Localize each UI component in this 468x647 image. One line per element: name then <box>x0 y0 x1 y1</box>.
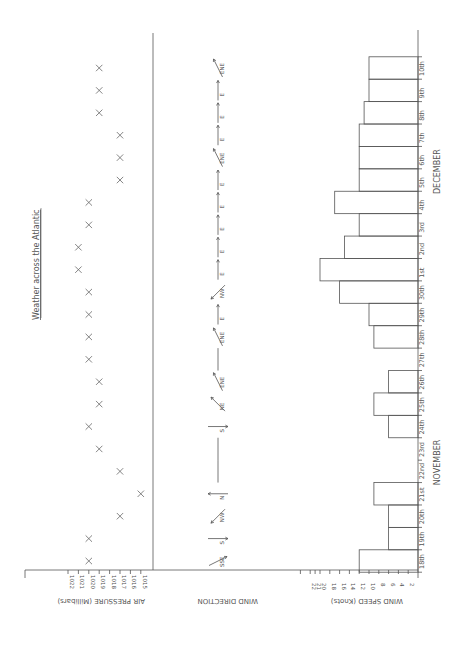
wind-direction-arrow: E <box>217 170 225 190</box>
pressure-x-marker <box>96 446 102 452</box>
wind-direction-arrow: N <box>208 492 228 499</box>
pressure-x-marker <box>86 423 92 429</box>
wind-direction-arrow: E <box>217 237 225 257</box>
wind-speed-bar <box>359 169 418 191</box>
wind-speed-bar <box>369 303 418 325</box>
wind-speed-bar <box>345 236 419 258</box>
speed-axis-label: WIND SPEED (Knots) <box>331 597 403 605</box>
pressure-x-marker <box>96 65 102 71</box>
date-tick-label: 2nd <box>418 243 426 255</box>
pressure-x-marker <box>96 110 102 116</box>
wind-speed-bar <box>340 281 418 303</box>
wind-direction-label: N <box>219 496 225 500</box>
pressure-x-marker <box>96 379 102 385</box>
pressure-axis-label: AIR PRESSURE (Millibars) <box>57 597 145 605</box>
wind-direction-arrow: ENE <box>213 373 225 391</box>
wind-direction-label: E <box>219 137 225 141</box>
pressure-x-marker <box>86 535 92 541</box>
pressure-x-marker <box>96 401 102 407</box>
wind-direction-arrow: S <box>208 537 228 544</box>
month-label-december: DECEMBER <box>433 149 442 194</box>
pressure-x-marker <box>86 356 92 362</box>
speed-tick-label: 2 <box>409 583 415 587</box>
pressure-x-marker <box>75 244 81 250</box>
pressure-x-marker <box>117 513 123 519</box>
pressure-x-marker <box>117 132 123 138</box>
date-tick-label: 21st <box>418 487 426 502</box>
wind-speed-bar <box>389 505 418 527</box>
chart-title-text: Weather across the Atlantic <box>32 209 41 320</box>
wind-direction-label: E <box>219 204 225 208</box>
pressure-x-marker <box>117 154 123 160</box>
speed-tick-label: 4 <box>399 583 405 587</box>
pressure-x-marker <box>138 491 144 497</box>
speed-tick-label: 10 <box>370 583 376 590</box>
wind-direction-label: NW <box>219 512 225 522</box>
pressure-x-marker <box>86 558 92 564</box>
wind-speed-bar <box>335 191 418 213</box>
date-tick-label: 18th <box>418 554 426 569</box>
wind-direction-label: ENE <box>219 331 225 343</box>
wind-direction-label: S <box>219 541 225 545</box>
date-tick-label: 7th <box>418 132 426 143</box>
pressure-x-marker <box>86 199 92 205</box>
date-tick-label: 20th <box>418 509 426 524</box>
wind-direction-label: NW <box>219 288 225 298</box>
wind-speed-bar <box>320 258 418 280</box>
air-pressure-panel: 10221021102010191018101710161015 <box>68 65 148 590</box>
pressure-tick-label: 1020 <box>90 575 96 589</box>
pressure-x-marker <box>117 177 123 183</box>
date-tick-label: 25th <box>418 397 426 412</box>
wind-speed-bar <box>374 483 418 505</box>
wind-speed-bar <box>359 214 418 236</box>
pressure-x-marker <box>86 334 92 340</box>
pressure-x-marker <box>86 311 92 317</box>
weather-chart: Weather across the Atlantic 102210211020… <box>0 0 468 647</box>
wind-speed-bar <box>359 146 418 168</box>
speed-tick-label: 14 <box>350 583 356 590</box>
wind-direction-label: E <box>219 182 225 186</box>
speed-tick-label: 12 <box>360 583 366 590</box>
date-tick-label: 27th <box>418 352 426 367</box>
wind-speed-bar <box>369 57 418 79</box>
pressure-x-marker <box>86 222 92 228</box>
wind-direction-arrow: ENE <box>213 149 225 167</box>
wind-direction-label: E <box>219 317 225 321</box>
wind-direction-label: S <box>219 429 225 433</box>
date-tick-label: 29th <box>418 308 426 323</box>
wind-speed-bar <box>374 326 418 348</box>
pressure-x-marker <box>86 289 92 295</box>
speed-tick-label: 18 <box>331 583 337 590</box>
wind-direction-arrow: E <box>217 125 225 145</box>
wind-speed-bar <box>389 371 418 393</box>
date-tick-label: 24th <box>418 420 426 435</box>
date-tick-label: 23rd <box>418 442 426 457</box>
pressure-tick-label: 1021 <box>79 575 85 589</box>
pressure-tick-label: 1018 <box>111 575 117 589</box>
pressure-tick-label: 1017 <box>121 575 127 589</box>
wind-direction-label: E <box>219 249 225 253</box>
pressure-tick-label: 1016 <box>131 575 137 589</box>
date-tick-label: 30th <box>418 285 426 300</box>
wind-direction-arrow: S <box>208 425 228 432</box>
wind-speed-bar <box>389 415 418 437</box>
date-tick-label: 19th <box>418 532 426 547</box>
date-tick-label: 8th <box>418 110 426 121</box>
wind-direction-label: E <box>219 92 225 96</box>
wind-direction-arrow: E <box>217 80 225 100</box>
wind-direction-arrow: E <box>217 215 225 235</box>
date-tick-label: 4th <box>418 200 426 211</box>
wind-direction-arrow: E <box>217 260 225 280</box>
month-label-november: NOVEMBER <box>433 439 442 485</box>
wind-direction-label: ENE <box>219 152 225 164</box>
chart-title: Weather across the Atlantic <box>32 208 41 320</box>
wind-direction-label: E <box>219 272 225 276</box>
wind-speed-bar <box>389 527 418 549</box>
wind-speed-panel: 18th19th20th21st22nd23rd24th25th26th27th… <box>300 57 442 591</box>
wind-direction-arrow: E <box>217 192 225 212</box>
wind-speed-bar <box>364 102 418 124</box>
pressure-tick-label: 1022 <box>69 575 75 589</box>
wind-direction-arrow: NE <box>211 397 225 411</box>
pressure-x-marker <box>96 87 102 93</box>
wind-direction-arrow: E <box>217 305 225 325</box>
